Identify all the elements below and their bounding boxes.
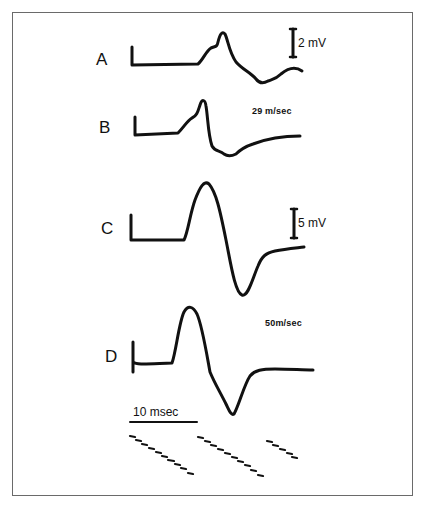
trace-label-b: B xyxy=(99,118,110,138)
conduction-velocity-d: 50m/sec xyxy=(265,318,302,328)
scale-bar-5mv xyxy=(291,209,297,238)
waveform-figure xyxy=(0,0,423,505)
trace-label-d: D xyxy=(105,347,117,367)
dash-group-2 xyxy=(198,437,263,476)
dash-group-3 xyxy=(267,441,297,458)
trace-label-c: C xyxy=(101,219,113,239)
scale-bar-2mv xyxy=(290,29,296,57)
trace-c-waveform xyxy=(131,183,304,295)
time-scale-label: 10 msec xyxy=(133,405,178,419)
scale-label-2mv: 2 mV xyxy=(298,36,326,50)
trace-label-a: A xyxy=(96,50,107,70)
time-marker-dashes xyxy=(130,436,297,476)
dash-group-1 xyxy=(130,436,193,474)
scale-label-5mv: 5 mV xyxy=(298,216,326,230)
conduction-velocity-b: 29 m/sec xyxy=(252,106,292,116)
trace-a-waveform xyxy=(132,33,302,83)
